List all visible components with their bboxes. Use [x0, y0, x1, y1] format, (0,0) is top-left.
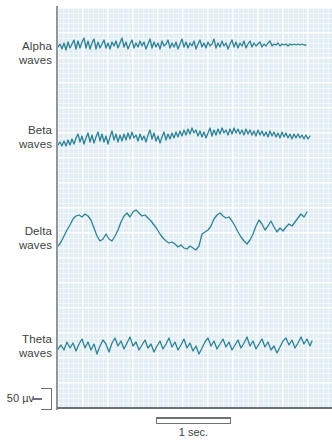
plot-bottom-axis: [57, 407, 332, 409]
delta-waveform-trace: [58, 210, 307, 250]
eeg-plot-area: [58, 8, 332, 408]
label-alpha-line1: Alpha: [22, 40, 52, 52]
label-delta-waves: Delta waves: [2, 225, 52, 252]
label-theta-line1: Theta: [22, 333, 52, 345]
label-theta-line2: waves: [2, 347, 52, 361]
alpha-waveform-trace: [58, 38, 306, 50]
eeg-figure: Alpha waves Beta waves Delta waves Theta…: [0, 0, 332, 444]
voltage-scale-bracket: [41, 388, 52, 410]
label-alpha-line2: waves: [2, 54, 52, 68]
theta-waveform-trace: [58, 337, 312, 354]
label-alpha-waves: Alpha waves: [2, 40, 52, 67]
time-scale-label: 1 sec.: [156, 426, 231, 438]
voltage-scale-label: 50 µv: [2, 392, 34, 404]
label-beta-waves: Beta waves: [2, 124, 52, 151]
eeg-traces: [58, 8, 332, 408]
plot-left-border: [56, 6, 58, 410]
voltage-scale-tick: [33, 398, 42, 400]
beta-waveform-trace: [58, 128, 310, 146]
label-theta-waves: Theta waves: [2, 333, 52, 360]
label-delta-line2: waves: [2, 239, 52, 253]
label-beta-line2: waves: [2, 138, 52, 152]
time-scale-bar: [156, 417, 231, 419]
label-delta-line1: Delta: [25, 225, 52, 237]
label-beta-line1: Beta: [28, 124, 52, 136]
